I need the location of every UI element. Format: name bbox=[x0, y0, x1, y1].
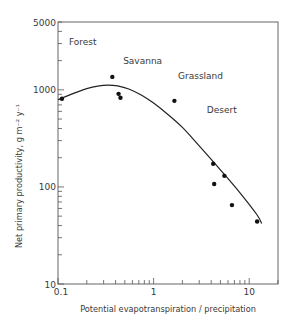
data-point bbox=[222, 174, 226, 178]
chart: 0.1110 1010010005000 ForestSavannaGrassl… bbox=[0, 0, 294, 328]
data-point bbox=[255, 219, 259, 223]
data-point bbox=[212, 182, 216, 186]
data-point bbox=[110, 75, 114, 79]
plot-frame bbox=[58, 22, 278, 284]
biome-label-savanna: Savanna bbox=[123, 56, 162, 66]
x-axis-tick-labels: 0.1110 bbox=[54, 287, 255, 297]
data-point bbox=[60, 97, 64, 101]
x-axis-label: Potential evapotranspiration / precipita… bbox=[80, 304, 256, 314]
y-axis-ticks bbox=[58, 22, 64, 284]
y-tick-label: 10 bbox=[45, 280, 57, 290]
x-tick-label: 1 bbox=[151, 287, 157, 297]
data-point bbox=[172, 99, 176, 103]
y-axis-label: Net primary productivity, g m⁻² y⁻¹ bbox=[14, 104, 24, 248]
x-axis-ticks bbox=[58, 278, 278, 284]
x-tick-label: 10 bbox=[243, 287, 255, 297]
data-point bbox=[118, 96, 122, 100]
y-axis-tick-labels: 1010010005000 bbox=[33, 18, 56, 290]
data-points bbox=[60, 75, 260, 224]
data-point bbox=[230, 203, 234, 207]
y-tick-label: 5000 bbox=[33, 18, 56, 28]
biome-label-desert: Desert bbox=[207, 105, 237, 115]
data-point bbox=[116, 92, 120, 96]
biome-label-forest: Forest bbox=[69, 37, 97, 47]
y-tick-label: 1000 bbox=[33, 85, 56, 95]
biome-label-grassland: Grassland bbox=[178, 71, 223, 81]
y-tick-label: 100 bbox=[39, 182, 56, 192]
data-point bbox=[211, 162, 215, 166]
